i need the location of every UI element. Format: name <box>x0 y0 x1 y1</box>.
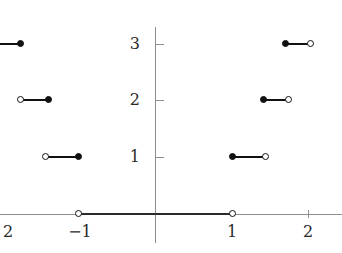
y-tick-label-3: 3 <box>118 36 140 52</box>
x-tick-label-neg2: 2 <box>0 224 19 240</box>
y-tick-1 <box>156 157 164 158</box>
step-function-plot: 3 2 1 2 −1 1 2 <box>0 0 342 253</box>
y-tick-2 <box>156 100 164 101</box>
x-tick-2 <box>308 210 309 218</box>
endpoint-open-center-left <box>75 210 82 217</box>
endpoint-filled-right-y1 <box>229 153 236 160</box>
endpoint-filled-right-y3 <box>282 40 289 47</box>
y-tick-3 <box>156 44 164 45</box>
endpoint-open-left-y2 <box>17 96 24 103</box>
endpoint-open-left-y1 <box>42 153 49 160</box>
endpoint-filled-left-y3 <box>17 40 24 47</box>
endpoint-filled-left-y2 <box>45 96 52 103</box>
y-tick-label-1: 1 <box>118 149 140 165</box>
endpoint-open-center-right <box>229 210 236 217</box>
y-axis <box>155 27 156 243</box>
endpoint-open-right-y2 <box>285 96 292 103</box>
segment-center-y0 <box>79 213 233 215</box>
endpoint-filled-right-y2 <box>260 96 267 103</box>
x-tick-label-neg1: −1 <box>65 224 95 240</box>
x-tick-label-pos2: 2 <box>297 224 319 240</box>
y-tick-label-2: 2 <box>118 92 140 108</box>
endpoint-open-right-y3 <box>307 40 314 47</box>
x-tick-label-pos1: 1 <box>221 224 243 240</box>
endpoint-filled-left-y1 <box>75 153 82 160</box>
endpoint-open-right-y1 <box>262 153 269 160</box>
